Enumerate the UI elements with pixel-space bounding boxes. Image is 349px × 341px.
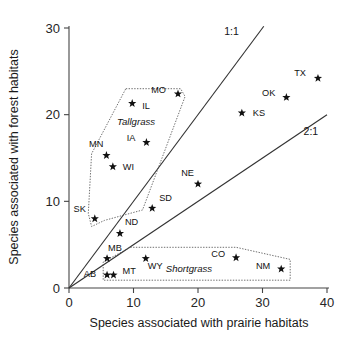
data-point-label-mt: MT xyxy=(123,266,137,276)
y-axis-title: Species associated with forest habitats xyxy=(7,49,21,264)
reference-line-label-1-1: 1:1 xyxy=(224,25,239,37)
x-tick-label: 40 xyxy=(320,295,334,310)
reference-line-1-1 xyxy=(69,26,264,288)
data-point-label-mo: MO xyxy=(151,85,166,95)
data-point-marker-nm xyxy=(277,265,285,273)
data-point-marker-mn xyxy=(102,151,110,159)
scatter-plot-figure: 0102030 010203040 1:12:1 TallgrassShortg… xyxy=(0,0,349,341)
region-label-tallgrass: Tallgrass xyxy=(117,116,155,127)
y-tick-label: 0 xyxy=(53,281,60,296)
y-tick-label: 20 xyxy=(46,107,60,122)
plot-canvas: 0102030 010203040 1:12:1 TallgrassShortg… xyxy=(0,0,349,341)
y-tick-label: 30 xyxy=(46,21,60,36)
data-point-label-ks: KS xyxy=(253,108,265,118)
x-tick-label: 0 xyxy=(65,295,72,310)
region-label-shortgrass: Shortgrass xyxy=(166,263,213,274)
data-point-marker-mt xyxy=(109,271,117,279)
data-point-marker-mo xyxy=(174,90,182,98)
data-point-marker-sd xyxy=(148,204,156,212)
data-point-label-nd: ND xyxy=(125,217,139,227)
reference-line-label-2-1: 2:1 xyxy=(304,125,319,137)
region-outline-tallgrass xyxy=(88,89,185,227)
data-point-label-mb: MB xyxy=(108,243,122,253)
data-point-marker-nd xyxy=(116,229,124,237)
x-tick-label: 20 xyxy=(191,295,205,310)
data-point-label-sd: SD xyxy=(159,193,172,203)
data-point-label-wy: WY xyxy=(148,261,163,271)
data-point-label-mn: MN xyxy=(89,139,103,149)
data-point-label-sk: SK xyxy=(74,204,87,214)
data-point-marker-il xyxy=(128,99,136,107)
data-point-label-tx: TX xyxy=(294,68,306,78)
y-tick-label: 10 xyxy=(46,194,60,209)
x-axis-title: Species associated with prairie habitats xyxy=(90,316,309,330)
x-axis-ticks: 010203040 xyxy=(65,288,334,310)
data-point-marker-ne xyxy=(194,180,202,188)
x-tick-label: 30 xyxy=(255,295,269,310)
data-point-marker-ia xyxy=(142,138,150,146)
data-point-label-ok: OK xyxy=(262,88,276,98)
data-point-label-nm: NM xyxy=(256,261,270,271)
y-axis-ticks: 0102030 xyxy=(46,21,69,296)
data-point-label-ab: AB xyxy=(84,269,96,279)
data-point-marker-co xyxy=(232,253,240,261)
data-point-label-ia: IA xyxy=(127,133,137,143)
data-point-label-co: CO xyxy=(211,249,225,259)
data-point-marker-wi xyxy=(109,162,117,170)
x-tick-label: 10 xyxy=(126,295,140,310)
data-point-label-wi: WI xyxy=(123,162,134,172)
data-point-label-il: IL xyxy=(142,101,150,111)
data-point-label-ne: NE xyxy=(181,168,194,178)
data-point-marker-ks xyxy=(238,109,246,117)
data-point-marker-ab xyxy=(103,271,111,279)
data-point-marker-tx xyxy=(314,74,322,82)
data-point-marker-sk xyxy=(91,214,99,222)
data-point-marker-ok xyxy=(282,93,290,101)
